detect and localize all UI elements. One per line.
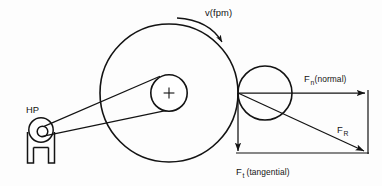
tangential-force-label-group: F t (tangential) <box>236 166 290 179</box>
force-diagram-svg: HP v(fpm) <box>0 0 382 186</box>
rotation-arrow-curve <box>177 18 222 42</box>
force-vectors <box>238 93 365 151</box>
force-diagram-canvas: HP v(fpm) <box>0 0 382 186</box>
normal-force-symbol: F <box>304 73 310 84</box>
normal-force-label-group: F n (normal) <box>304 73 347 86</box>
motor-assembly: HP <box>26 104 55 163</box>
motor-hp-label: HP <box>26 104 39 115</box>
resultant-force-subscript: R <box>344 130 349 137</box>
rotation-indicator: v(fpm) <box>177 7 232 42</box>
velocity-label: v(fpm) <box>205 7 232 18</box>
resultant-force-symbol: F <box>337 124 343 135</box>
tangential-force-subscript: t <box>243 172 245 179</box>
tangential-force-symbol: F <box>236 166 242 177</box>
normal-force-qualifier: (normal) <box>315 74 347 84</box>
resultant-force-label-group: F R <box>337 124 349 137</box>
tangential-force-qualifier: (tangential) <box>247 167 290 177</box>
belt-upper-strand <box>44 76 160 126</box>
resultant-force-vector <box>238 93 364 151</box>
belt-lower-strand <box>41 108 177 136</box>
